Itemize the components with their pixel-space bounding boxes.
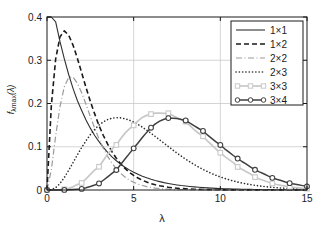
- y-tick-label: 0.2: [28, 98, 42, 109]
- series-marker-3x3: [235, 165, 240, 170]
- legend-sample-marker: [261, 84, 265, 88]
- legend-sample-marker: [248, 84, 252, 88]
- series-marker-3x4: [235, 156, 240, 161]
- series-marker-3x4: [201, 129, 206, 134]
- x-axis-label: λ: [0, 212, 324, 224]
- x-tick-label: 15: [301, 193, 313, 204]
- legend-item-label: 3×4: [270, 95, 287, 106]
- legend-item-label: 1×1: [270, 25, 287, 36]
- series-marker-3x4: [166, 116, 171, 121]
- series-marker-3x4: [270, 175, 275, 180]
- series-line-3x3: [47, 113, 307, 190]
- chart-legend[interactable]: 1×11×22×22×33×33×4: [231, 21, 303, 106]
- y-axis-label-symbol: f: [6, 112, 16, 115]
- series-marker-3x4: [218, 143, 223, 148]
- series-marker-3x3: [131, 123, 136, 128]
- series-marker-3x3: [114, 143, 119, 148]
- series-marker-3x3: [97, 164, 102, 169]
- series-marker-3x4: [183, 118, 188, 123]
- series-marker-3x3: [218, 150, 223, 155]
- series-marker-3x4: [149, 125, 154, 130]
- legend-item-label: 2×2: [270, 53, 287, 64]
- y-axis-label-subscript: λmax: [10, 95, 17, 112]
- legend-sample-marker: [261, 98, 266, 103]
- y-tick-label: 0: [36, 185, 42, 196]
- legend-sample-marker: [248, 98, 253, 103]
- legend-box[interactable]: [231, 21, 303, 105]
- legend-item-label: 3×3: [270, 81, 287, 92]
- series-marker-3x4: [253, 167, 258, 172]
- figure-container: 05101500.10.20.30.4 1×11×22×22×33×33×4 f…: [0, 0, 324, 236]
- y-tick-label: 0.1: [28, 141, 42, 152]
- x-tick-label: 5: [131, 193, 137, 204]
- x-tick-label: 0: [44, 193, 50, 204]
- series-marker-3x3: [79, 181, 84, 186]
- legend-sample-marker: [235, 98, 240, 103]
- series-marker-3x4: [287, 181, 292, 186]
- y-tick-label: 0.4: [28, 12, 42, 23]
- y-tick-label: 0.3: [28, 55, 42, 66]
- series-marker-3x3: [166, 111, 171, 116]
- series-marker-3x3: [149, 112, 154, 117]
- legend-sample-marker: [235, 84, 239, 88]
- series-marker-3x4: [79, 187, 84, 192]
- legend-item-label: 1×2: [270, 39, 287, 50]
- y-axis-label-argument: (λ): [6, 85, 16, 95]
- y-axis-label: fλmax(λ): [6, 65, 17, 135]
- chart-canvas: 05101500.10.20.30.4 1×11×22×22×33×33×4: [0, 0, 324, 236]
- legend-item-label: 2×3: [270, 67, 287, 78]
- x-tick-label: 10: [215, 193, 227, 204]
- series-marker-3x3: [253, 175, 258, 180]
- series-marker-3x4: [131, 146, 136, 151]
- series-marker-3x3: [201, 134, 206, 139]
- series-marker-3x3: [270, 181, 275, 186]
- series-marker-3x4: [97, 181, 102, 186]
- series-marker-3x4: [114, 168, 119, 173]
